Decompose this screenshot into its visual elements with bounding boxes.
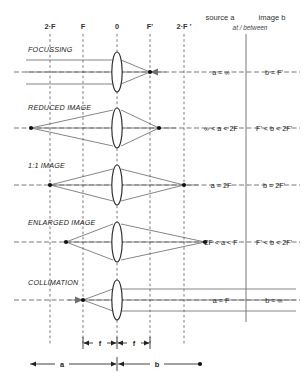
image-point-reduced-image [157,126,161,130]
b-span-endpoint [198,362,202,366]
source-condition-focussing: a = ∞ [212,68,229,77]
axis-label-2f: 2·F [44,22,56,31]
object-image-distance-dimensions: a b [30,357,202,371]
image-point-one-to-one-image [182,183,186,187]
image-distance-label: b [155,360,160,369]
row-one-to-one-image: 1:1 IMAGE a = 2F b = 2F' [14,161,300,205]
lens-reduced-image [112,108,122,148]
row-enlarged-image: ENLARGED IMAGE 2F < a < F F' < b < 2F' [14,218,300,262]
image-column-header: image b [258,13,285,22]
header-subnote: at / between [233,24,268,31]
row-label-one-to-one-image: 1:1 IMAGE [28,161,65,170]
source-condition-reduced-image: ∞ < a < 2F [204,124,239,133]
axis-tick-labels: 2·F F 0 F' 2·F ' [44,22,191,31]
source-condition-collimation: a = F [213,296,230,305]
image-point-focussing [148,70,152,74]
ray-bundle-collimation [68,289,296,311]
source-point-one-to-one-image [48,183,52,187]
source-point-collimation [81,298,85,302]
row-label-collimation: COLLIMATION [28,278,79,287]
axis-label-f-prime: F' [147,22,154,31]
source-point-enlarged-image [64,240,68,244]
source-column-header: source a [205,13,235,22]
image-condition-collimation: b = ∞ [265,296,282,305]
ray-bundle-reduced-image [31,110,176,146]
lens-one-to-one-image [112,165,122,205]
row-label-reduced-image: REDUCED IMAGE [28,103,91,112]
image-condition-focussing: b = F' [265,68,284,77]
row-collimation: COLLIMATION a = F b = ∞ [14,278,300,320]
source-condition-enlarged-image: 2F < a < F [204,238,238,247]
axis-label-zero: 0 [115,22,119,31]
source-point-reduced-image [29,126,33,130]
source-condition-one-to-one-image: a = 2F [211,181,232,190]
lens-collimation [112,280,122,320]
row-reduced-image: REDUCED IMAGE ∞ < a < 2F F' < b < 2F' [14,103,300,148]
ray-bundle-focussing [26,60,166,84]
row-focussing: FOCUSSING a = ∞ b = F' [14,45,300,92]
axis-label-f: F [81,22,86,31]
row-label-focussing: FOCUSSING [28,45,73,54]
lens-enlarged-image [112,222,122,262]
ray-bundle-one-to-one-image [50,169,198,201]
optics-diagram: source a image b at / between 2·F F 0 F'… [0,0,306,379]
lens-focussing [112,52,122,92]
column-headers: source a image b at / between [205,13,285,31]
axis-label-2f-prime: 2·F ' [177,22,192,31]
image-condition-one-to-one-image: b = 2F' [263,181,286,190]
row-label-enlarged-image: ENLARGED IMAGE [28,218,96,227]
image-condition-enlarged-image: F' < b < 2F' [256,238,293,247]
focal-length-dimensions: f f [83,337,150,349]
image-condition-reduced-image: F' < b < 2F' [256,124,293,133]
